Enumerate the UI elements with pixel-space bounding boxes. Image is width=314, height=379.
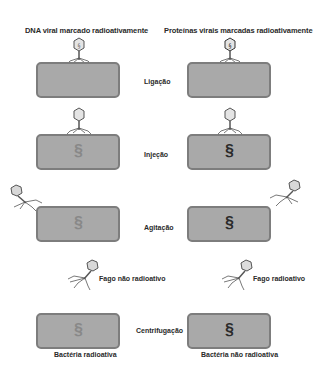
phage-label-left: Fago não radioativo: [99, 275, 166, 282]
dna-dark-icon: §: [225, 214, 234, 232]
phage-empty-left-icon: [64, 106, 94, 136]
result-label-left: Bactéria radioativa: [54, 351, 117, 358]
step-agitacao: Agitação: [144, 224, 174, 231]
phage-empty-right-icon: [215, 106, 245, 136]
step-ligacao: Ligação: [144, 78, 170, 85]
phage-detached-right-icon: [268, 178, 304, 210]
left-column-title: DNA viral marcado radioativamente: [25, 26, 148, 35]
right-column-title: Proteínas virais marcadas radioativament…: [164, 26, 312, 35]
result-label-right: Bactéria não radioativa: [201, 351, 278, 358]
free-phage-left-icon: [66, 258, 100, 292]
phage-attached-right-icon: §: [215, 36, 245, 64]
free-phage-right-icon: [220, 258, 254, 292]
dna-light-icon: §: [74, 214, 83, 232]
step-injecao: Injeção: [144, 151, 168, 158]
svg-text:§: §: [229, 42, 232, 49]
dna-light-icon: §: [74, 321, 83, 339]
bacterium-right-ligacao: [187, 62, 271, 98]
dna-light-icon: §: [74, 142, 83, 160]
phage-label-right: Fago radioativo: [253, 275, 305, 282]
dna-dark-icon: §: [225, 321, 234, 339]
dna-dark-icon: §: [225, 142, 234, 160]
step-centrifugacao: Centrifugação: [136, 327, 183, 334]
phage-attached-left-icon: §: [64, 36, 94, 64]
svg-text:§: §: [78, 42, 81, 49]
bacterium-left-ligacao: [36, 62, 120, 98]
